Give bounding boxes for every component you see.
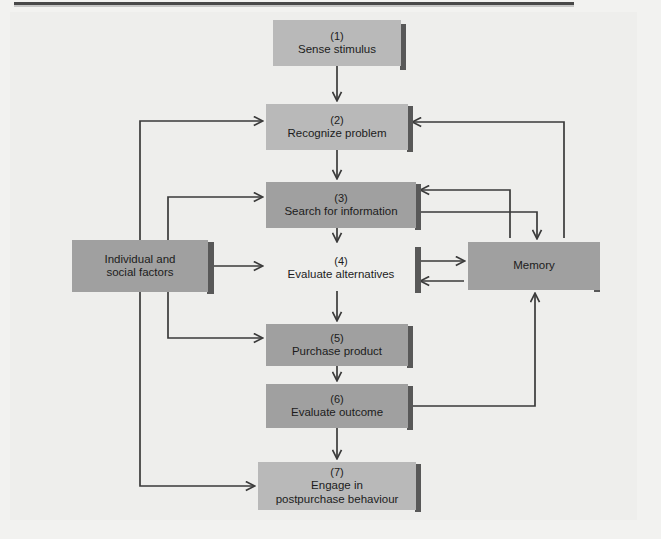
- edge-left-to-n5: [168, 292, 262, 338]
- node-n1[interactable]: [273, 20, 401, 66]
- node-n3[interactable]: [266, 182, 416, 228]
- node-n5[interactable]: [266, 324, 408, 366]
- node-n2[interactable]: [266, 104, 408, 150]
- node-left-shadow: [207, 242, 214, 294]
- edge-n3-to-memory: [421, 212, 537, 238]
- node-n4[interactable]: [266, 245, 416, 291]
- node-memory[interactable]: [468, 242, 600, 290]
- node-individual-social-factors[interactable]: [72, 240, 208, 292]
- edge-n6-to-memory: [413, 294, 535, 406]
- node-n7[interactable]: [258, 462, 416, 510]
- edge-left-to-n7: [140, 292, 254, 486]
- diagram-canvas: (1) Sense stimulus (2) Recognize problem…: [0, 0, 661, 539]
- edge-memory-to-n3: [421, 190, 510, 238]
- node-n6[interactable]: [266, 384, 408, 428]
- edge-memory-to-n2: [413, 122, 564, 238]
